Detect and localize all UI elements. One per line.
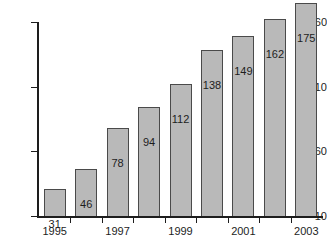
x-axis-tick xyxy=(196,218,197,223)
bar-value-label: 78 xyxy=(111,158,123,169)
y-axis-line xyxy=(37,22,39,217)
bar xyxy=(107,128,129,216)
x-axis-line xyxy=(37,216,323,218)
bar xyxy=(170,84,192,216)
bar xyxy=(44,189,66,216)
bar xyxy=(201,50,223,216)
bar-value-label: 112 xyxy=(172,114,190,125)
y-axis-tick xyxy=(31,216,37,217)
bar-value-label: 138 xyxy=(203,80,221,91)
x-axis-tick-label: 2001 xyxy=(231,226,255,237)
x-axis-tick xyxy=(70,218,71,223)
x-axis-tick-label: 1997 xyxy=(105,226,129,237)
x-axis-tick xyxy=(165,218,166,223)
y-axis-tick xyxy=(31,22,37,23)
x-axis-tick-label: 2003 xyxy=(294,226,318,237)
bar-value-label: 94 xyxy=(143,137,155,148)
bar-value-label: 149 xyxy=(234,66,252,77)
y-axis-tick xyxy=(31,151,37,152)
x-axis-tick xyxy=(259,218,260,223)
x-axis-tick xyxy=(228,218,229,223)
bar xyxy=(138,107,160,216)
bar-value-label: 175 xyxy=(297,33,315,44)
x-axis-tick xyxy=(291,218,292,223)
bar-chart: 1060110160 31467894112138149162175 19951… xyxy=(0,0,327,247)
bar-value-label: 46 xyxy=(80,199,92,210)
x-axis-tick-label: 1999 xyxy=(168,226,192,237)
x-axis-tick xyxy=(133,218,134,223)
x-axis-tick-label: 1995 xyxy=(42,226,66,237)
x-axis-tick xyxy=(102,218,103,223)
bar-value-label: 162 xyxy=(266,49,284,60)
bar xyxy=(232,36,254,216)
y-axis-tick xyxy=(31,87,37,88)
